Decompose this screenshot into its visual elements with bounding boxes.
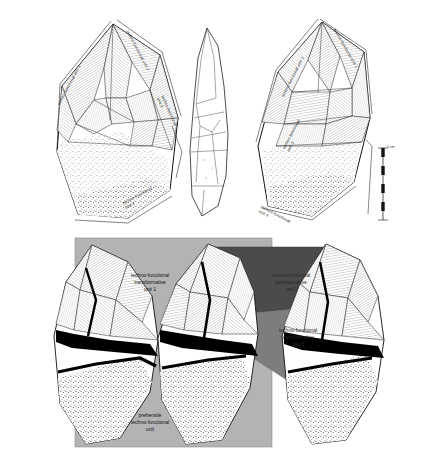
label-transformative-unit-2: techno-functional transformative unit 2 [255, 272, 327, 292]
left-artifact [57, 20, 182, 223]
scale-bar-label: 1 cm [387, 145, 394, 149]
upper-panel [57, 19, 388, 223]
middle-artifact [190, 28, 228, 216]
scale-bar [366, 140, 388, 220]
right-artifact [256, 19, 372, 220]
label-prehensile-unit: prehensile techno-functional unit [112, 412, 188, 432]
lower-panel [54, 238, 384, 447]
label-transformative-unit-3: techno-functional transformative unit 3 [265, 327, 331, 347]
lithic-figure [0, 0, 439, 464]
label-transformative-unit-1: techno-functional transformative unit 1 [112, 272, 188, 292]
